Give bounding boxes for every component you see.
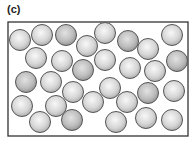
particle-light <box>32 25 53 46</box>
particle-dark <box>138 83 159 104</box>
particle-light <box>136 108 157 129</box>
particle-diagram <box>0 0 194 144</box>
particle-light <box>52 51 73 72</box>
particle-dark <box>62 110 83 131</box>
particle-light <box>100 78 121 99</box>
particle-light <box>95 50 116 71</box>
particle-light <box>10 30 31 51</box>
particle-light <box>162 110 183 131</box>
particle-light <box>77 36 98 57</box>
particle-light <box>30 112 51 133</box>
particle-light <box>63 82 84 103</box>
particle-light <box>145 61 166 82</box>
particle-dark <box>167 51 188 72</box>
particle-light <box>41 72 62 93</box>
particle-dark <box>73 60 94 81</box>
particle-light <box>138 39 159 60</box>
particle-light <box>12 96 33 117</box>
particle-light <box>164 81 185 102</box>
particle-dark <box>118 31 139 52</box>
particle-light <box>26 48 47 69</box>
particle-light <box>106 112 127 133</box>
particle-dark <box>56 25 77 46</box>
particle-light <box>162 25 183 46</box>
particle-light <box>117 92 138 113</box>
particle-light <box>95 23 116 44</box>
particle-light <box>83 92 104 113</box>
particle-dark <box>16 72 37 93</box>
particle-light <box>120 58 141 79</box>
